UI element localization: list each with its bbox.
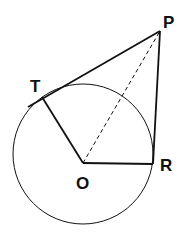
radius-or [83,163,153,164]
segment-op-dashed [83,31,160,163]
label-o: O [76,174,89,193]
label-p: P [163,13,174,32]
tangent-line-pt [28,31,160,107]
circle [13,84,153,224]
radius-ot [42,97,83,163]
label-r: R [160,156,172,175]
segment-rp [153,31,160,164]
label-t: T [30,77,41,96]
geometry-diagram: P T O R [0,0,189,238]
